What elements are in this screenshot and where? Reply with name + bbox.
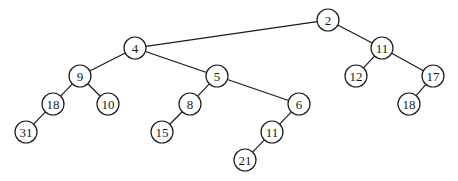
tree-edges (34, 22, 426, 153)
node-label: 18 (403, 97, 416, 112)
tree-edge-n4-n9 (90, 53, 125, 71)
tree-node: 9 (69, 65, 91, 87)
node-label: 6 (296, 97, 303, 112)
tree-node: 5 (206, 65, 228, 87)
node-label: 2 (325, 13, 332, 28)
tree-node: 11 (261, 121, 283, 143)
tree-node: 17 (422, 65, 444, 87)
tree-node: 2 (317, 9, 339, 31)
tree-edge-n2-n4 (146, 22, 317, 47)
tree-nodes: 24119512171810861831151121 (15, 9, 444, 171)
tree-edge-n11a-n17 (392, 53, 424, 70)
tree-node: 31 (15, 121, 37, 143)
tree-diagram: 24119512171810861831151121 (0, 0, 458, 181)
node-label: 12 (350, 69, 363, 84)
tree-node: 12 (345, 65, 367, 87)
tree-edge-n4-n5 (145, 52, 206, 73)
node-label: 21 (239, 153, 252, 168)
node-label: 18 (47, 97, 60, 112)
node-label: 5 (214, 69, 221, 84)
node-label: 8 (187, 97, 194, 112)
tree-edge-n2-n11a (338, 25, 372, 43)
tree-node: 18 (42, 93, 64, 115)
tree-node: 10 (97, 93, 119, 115)
tree-edge-n11b-n21 (253, 140, 265, 152)
tree-node: 4 (124, 37, 146, 59)
tree-edge-n5-n8 (198, 84, 210, 96)
tree-edge-n8-n15 (170, 112, 182, 124)
tree-node: 18 (398, 93, 420, 115)
node-label: 31 (20, 125, 33, 140)
node-label: 11 (266, 125, 279, 140)
tree-edge-n9-n18a (61, 84, 73, 96)
tree-edge-n18a-n31 (34, 112, 46, 124)
node-label: 15 (156, 125, 169, 140)
tree-node: 11 (371, 37, 393, 59)
node-label: 10 (102, 97, 115, 112)
node-label: 11 (376, 41, 389, 56)
tree-node: 21 (234, 149, 256, 171)
tree-edge-n6-n11b (280, 112, 292, 124)
tree-edge-n11a-n12 (363, 56, 374, 68)
node-label: 4 (132, 41, 139, 56)
tree-node: 15 (151, 121, 173, 143)
node-label: 9 (77, 69, 84, 84)
tree-edge-n17-n18b (416, 84, 426, 95)
node-label: 17 (427, 69, 441, 84)
tree-edge-n9-n10 (88, 84, 100, 96)
tree-node: 8 (179, 93, 201, 115)
tree-edge-n5-n6 (227, 80, 288, 101)
tree-node: 6 (288, 93, 310, 115)
